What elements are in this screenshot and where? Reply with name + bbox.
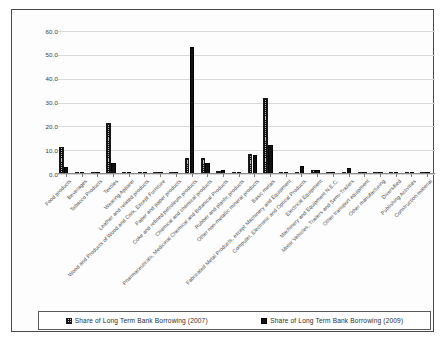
bar-2007[interactable] xyxy=(201,158,205,174)
legend-label-2009: Share of Long Term Bank Borrowing (2009) xyxy=(270,317,403,324)
y-tick-label: 50.0 xyxy=(46,51,58,58)
legend-item-2007[interactable]: Share of Long Term Bank Borrowing (2007) xyxy=(66,317,208,324)
legend-label-2007: Share of Long Term Bank Borrowing (2007) xyxy=(75,317,208,324)
bar-group xyxy=(105,31,121,174)
bar-group xyxy=(199,31,215,174)
plot-area xyxy=(58,31,435,174)
bar-2007[interactable] xyxy=(59,147,63,174)
legend-item-2009[interactable]: Share of Long Term Bank Borrowing (2009) xyxy=(261,317,403,324)
bar-2007[interactable] xyxy=(248,154,252,174)
hatched-swatch-icon xyxy=(66,318,72,324)
y-tick-label: 20.0 xyxy=(46,123,58,130)
y-tick-label: 30.0 xyxy=(46,99,58,106)
bar-2007[interactable] xyxy=(185,158,189,174)
y-tick-label: 60.0 xyxy=(46,28,58,35)
y-tick-label: 10.0 xyxy=(46,147,58,154)
bar-group xyxy=(419,31,435,174)
chart-legend: Share of Long Term Bank Borrowing (2007)… xyxy=(38,311,431,330)
bar-group xyxy=(404,31,420,174)
bar-2009[interactable] xyxy=(190,47,194,174)
bar-group xyxy=(74,31,90,174)
bar-2009[interactable] xyxy=(253,155,257,174)
bar-group xyxy=(168,31,184,174)
solid-swatch-icon xyxy=(261,318,267,324)
bar-group xyxy=(58,31,74,174)
chart-frame: 0.010.020.030.040.050.060.0 Food product… xyxy=(11,9,434,332)
bar-group xyxy=(262,31,278,174)
bar-group xyxy=(184,31,200,174)
bar-group xyxy=(121,31,137,174)
bar-2007[interactable] xyxy=(263,98,267,174)
bar-group xyxy=(372,31,388,174)
bar-group xyxy=(309,31,325,174)
bar-group xyxy=(325,31,341,174)
bar-group xyxy=(278,31,294,174)
bar-group xyxy=(388,31,404,174)
bar-group xyxy=(294,31,310,174)
x-axis-label: Construction material xyxy=(429,176,435,182)
bar-2009[interactable] xyxy=(268,145,272,174)
bar-group xyxy=(247,31,263,174)
x-axis-labels: Food productsBeveragesTobacco ProductsTe… xyxy=(12,176,435,296)
bar-group xyxy=(231,31,247,174)
y-axis-labels: 0.010.020.030.040.050.060.0 xyxy=(24,24,58,179)
bar-group xyxy=(356,31,372,174)
bar-2007[interactable] xyxy=(106,123,110,174)
bar-group xyxy=(215,31,231,174)
bar-group xyxy=(152,31,168,174)
bar-groups xyxy=(58,31,435,174)
bar-group xyxy=(137,31,153,174)
bar-group xyxy=(341,31,357,174)
bar-group xyxy=(89,31,105,174)
chart-page: 0.010.020.030.040.050.060.0 Food product… xyxy=(0,0,445,341)
y-tick-label: 40.0 xyxy=(46,75,58,82)
